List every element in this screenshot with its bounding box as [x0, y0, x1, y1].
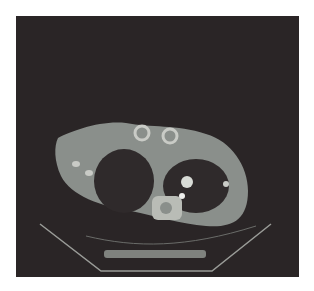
ct-scan-image — [16, 16, 299, 277]
right-lung — [94, 149, 154, 213]
